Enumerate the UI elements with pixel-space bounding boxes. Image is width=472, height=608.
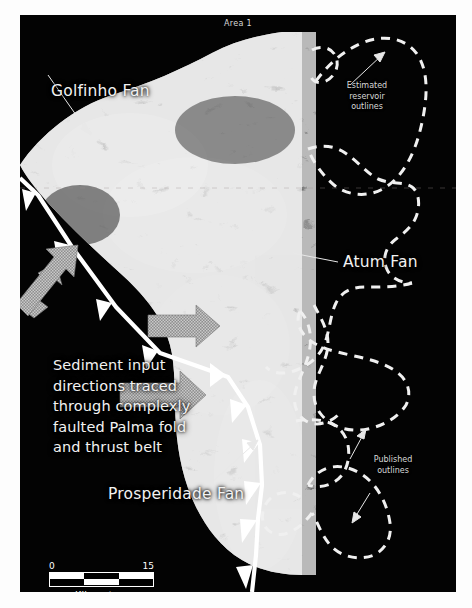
estimated-line-1: Estimated	[332, 81, 402, 92]
map-panel: Area 1 Golfinho Fan Atum Fan Prosperidad…	[20, 15, 456, 592]
scale-bar-max-label: 15	[143, 561, 154, 571]
sediment-input-annotation: Sediment input directions traced through…	[53, 355, 190, 458]
estimated-line-2: reservoir	[332, 92, 402, 103]
scale-bar-end-labels: 0 15	[49, 561, 154, 572]
scale-bar-row-bottom	[50, 579, 153, 585]
published-line-2: outlines	[358, 466, 428, 477]
sediment-arrow-1-shape	[20, 245, 78, 316]
published-arrowhead-2	[352, 512, 361, 523]
estimated-line-3: outlines	[332, 102, 402, 113]
scale-bar-cell	[119, 579, 153, 585]
paragraph-line-4: faulted Palma fold	[53, 417, 190, 438]
paragraph-line-1: Sediment input	[53, 355, 190, 376]
paragraph-line-5: and thrust belt	[53, 437, 190, 458]
scale-bar-cell	[84, 579, 118, 585]
label-atum-fan: Atum Fan	[343, 253, 418, 271]
label-golfinho-fan: Golfinho Fan	[51, 82, 150, 100]
published-outline-4	[308, 467, 390, 558]
label-published-outlines: Published outlines	[358, 455, 428, 476]
scale-bar-graphic	[49, 572, 154, 587]
scale-bar: 0 15 Kilometers	[49, 561, 154, 592]
scale-bar-min-label: 0	[49, 561, 55, 571]
published-line-1: Published	[358, 455, 428, 466]
label-prosperidade-fan: Prosperidade Fan	[108, 485, 244, 503]
panel-title: Area 1	[20, 19, 456, 28]
label-estimated-reservoir-outlines: Estimated reservoir outlines	[332, 81, 402, 113]
paragraph-line-2: directions traced	[53, 376, 190, 397]
paragraph-line-3: through complexly	[53, 396, 190, 417]
scale-bar-cell	[50, 579, 84, 585]
figure-root: Area 1 Golfinho Fan Atum Fan Prosperidad…	[0, 0, 472, 608]
scale-bar-units-label: Kilometers	[49, 589, 154, 592]
